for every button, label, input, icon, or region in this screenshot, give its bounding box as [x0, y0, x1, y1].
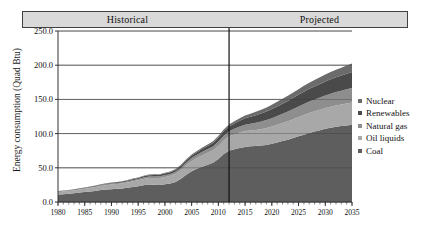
x-tick-label: 2000	[157, 208, 172, 217]
legend-label: Natural gas	[366, 121, 407, 131]
legend-swatch-icon	[358, 136, 362, 140]
x-tick-label: 1990	[104, 208, 119, 217]
x-tick-label: 2025	[291, 208, 306, 217]
legend-label: Coal	[366, 146, 383, 156]
legend-label: Oil liquids	[366, 133, 404, 143]
y-tick-label: 0.0	[42, 197, 53, 207]
x-tick-label: 2010	[211, 208, 226, 217]
x-tick-label: 2020	[264, 208, 279, 217]
x-tick-label: 2005	[184, 208, 199, 217]
y-tick-label: 100.0	[34, 129, 53, 139]
x-tick-label: 1980	[51, 208, 66, 217]
x-tick-label: 2015	[238, 208, 253, 217]
y-tick-label: 150.0	[34, 94, 53, 104]
chart-legend: NuclearRenewablesNatural gasOil liquidsC…	[358, 96, 409, 156]
y-tick-label: 250.0	[34, 26, 53, 36]
legend-swatch-icon	[358, 99, 362, 103]
legend-item-renewables[interactable]: Renewables	[358, 108, 409, 118]
x-tick-label: 1985	[77, 208, 92, 217]
x-tick-label: 2035	[345, 208, 360, 217]
legend-label: Nuclear	[366, 96, 394, 106]
legend-label: Renewables	[366, 108, 409, 118]
energy-consumption-chart: Historical Projected Energy consumption …	[0, 0, 446, 239]
x-tick-label: 1995	[131, 208, 146, 217]
legend-swatch-icon	[358, 111, 362, 115]
legend-swatch-icon	[358, 149, 362, 153]
legend-item-coal[interactable]: Coal	[358, 146, 409, 156]
legend-swatch-icon	[358, 124, 362, 128]
legend-item-oil-liquids[interactable]: Oil liquids	[358, 133, 409, 143]
legend-item-natural-gas[interactable]: Natural gas	[358, 121, 409, 131]
y-tick-label: 200.0	[34, 60, 53, 70]
y-tick-label: 50.0	[38, 163, 53, 173]
x-tick-label: 2030	[318, 208, 333, 217]
legend-item-nuclear[interactable]: Nuclear	[358, 96, 409, 106]
